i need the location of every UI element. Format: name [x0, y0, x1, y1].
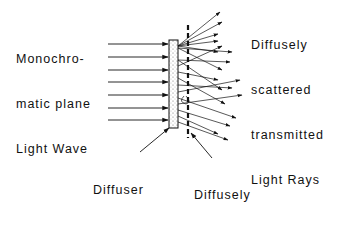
diffuser-label: Diffuser [93, 153, 144, 213]
object-transparency-label: Diffusely illuminated object transparenc… [194, 158, 322, 215]
incoming-wave-arrows [108, 44, 168, 120]
diffuser-pointer-arrow [140, 128, 169, 152]
incoming-wave-label: Monochro- matic plane Light Wave [16, 22, 91, 172]
object-pointer-arrow [191, 133, 212, 158]
diffuser-plate [169, 40, 178, 128]
